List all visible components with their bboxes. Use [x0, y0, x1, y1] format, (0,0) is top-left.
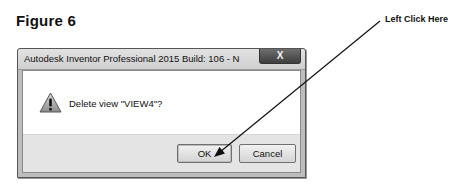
ok-button[interactable]: OK: [177, 144, 232, 163]
dialog-body: Delete view "VIEW4"? OK Cancel: [22, 70, 301, 173]
warning-icon: [39, 92, 62, 113]
dialog-titlebar[interactable]: Autodesk Inventor Professional 2015 Buil…: [18, 49, 305, 70]
dialog-title: Autodesk Inventor Professional 2015 Buil…: [24, 53, 240, 64]
cancel-button[interactable]: Cancel: [239, 144, 296, 163]
button-bar: OK Cancel: [23, 134, 300, 172]
close-button[interactable]: X: [259, 49, 301, 64]
confirm-dialog: Autodesk Inventor Professional 2015 Buil…: [17, 48, 306, 178]
message-area: Delete view "VIEW4"?: [23, 71, 300, 134]
figure-title: Figure 6: [16, 12, 76, 29]
annotation-label: Left Click Here: [385, 14, 448, 24]
dialog-message: Delete view "VIEW4"?: [69, 98, 162, 109]
